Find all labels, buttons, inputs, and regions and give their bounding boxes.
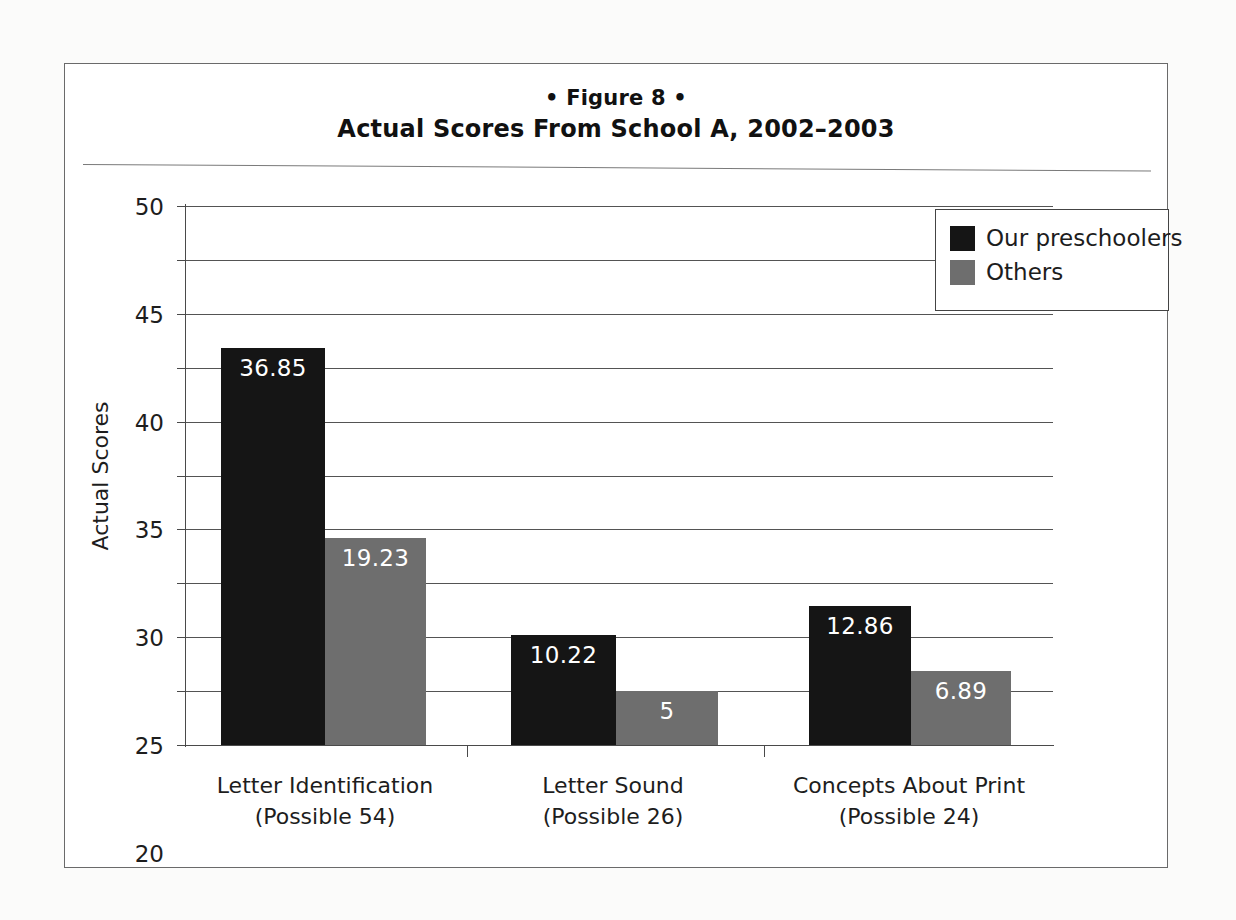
- bar-value-label: 5: [616, 698, 718, 724]
- y-axis-tick: 45: [177, 260, 186, 261]
- bar-value-label: 36.85: [221, 355, 325, 381]
- figure-title-block: • Figure 8 • Actual Scores From School A…: [65, 85, 1167, 145]
- bar-others-2: 6.89: [911, 671, 1011, 745]
- y-axis-tick: 40: [177, 314, 186, 315]
- y-axis-tick: 50: [177, 206, 186, 207]
- title-separator-rule: [83, 164, 1151, 172]
- x-axis-tick: [764, 745, 765, 757]
- bar-value-label: 10.22: [511, 642, 616, 668]
- category-label-line2: (Possible 26): [453, 801, 773, 832]
- y-axis-tick: 10: [177, 637, 186, 638]
- bar-others-1: 5: [616, 691, 718, 745]
- y-axis-tick: 35: [177, 368, 186, 369]
- category-label-line1: Letter Identification: [217, 773, 433, 798]
- gridline: [186, 260, 1053, 261]
- category-label-1: Letter Sound(Possible 26): [453, 770, 773, 832]
- y-axis-tick-label: 20: [135, 841, 164, 867]
- category-label-2: Concepts About Print(Possible 24): [749, 770, 1069, 832]
- legend-item-our-preschoolers: Our preschoolers: [950, 221, 1168, 255]
- figure-frame: • Figure 8 • Actual Scores From School A…: [64, 63, 1168, 868]
- bar-value-label: 6.89: [911, 678, 1011, 704]
- y-axis-tick-label: 50: [135, 194, 164, 220]
- figure-title: Actual Scores From School A, 2002–2003: [65, 114, 1167, 145]
- y-axis-title: Actual Scores: [88, 401, 113, 550]
- dark-square-icon: [950, 226, 975, 251]
- bar-our-preschoolers-1: 10.22: [511, 635, 616, 745]
- chart-legend: Our preschoolers Others: [935, 209, 1169, 311]
- category-label-0: Letter Identification(Possible 54): [165, 770, 485, 832]
- gray-square-icon: [950, 260, 975, 285]
- legend-item-others: Others: [950, 255, 1168, 289]
- x-axis-line: [185, 745, 1054, 746]
- y-axis-tick-label: 35: [135, 517, 164, 543]
- y-axis-tick: 25: [177, 476, 186, 477]
- bar-our-preschoolers-0: 36.85: [221, 348, 325, 745]
- y-axis-tick-label: 45: [135, 302, 164, 328]
- figure-number-label: • Figure 8 •: [65, 85, 1167, 111]
- legend-label-others: Others: [986, 259, 1063, 285]
- legend-label-our-preschoolers: Our preschoolers: [986, 225, 1182, 251]
- bar-value-label: 12.86: [809, 613, 911, 639]
- category-label-line2: (Possible 54): [165, 801, 485, 832]
- bar-our-preschoolers-2: 12.86: [809, 606, 911, 745]
- y-axis-title-container: Actual Scores: [83, 206, 117, 745]
- bar-value-label: 19.23: [325, 545, 426, 571]
- y-axis-tick: 15: [177, 583, 186, 584]
- y-axis-tick: 5: [177, 691, 186, 692]
- x-axis-tick: [467, 745, 468, 757]
- y-axis-tick: 20: [177, 529, 186, 530]
- y-axis-tick: 30: [177, 422, 186, 423]
- bar-others-0: 19.23: [325, 538, 426, 745]
- y-axis-tick-label: 40: [135, 410, 164, 436]
- y-axis-tick: 0: [177, 745, 186, 746]
- gridline: [186, 206, 1053, 207]
- y-axis-tick-label: 25: [135, 733, 164, 759]
- y-axis-tick-label: 30: [135, 625, 164, 651]
- gridline: [186, 314, 1053, 315]
- category-label-line1: Letter Sound: [542, 773, 684, 798]
- category-label-line1: Concepts About Print: [793, 773, 1025, 798]
- category-label-line2: (Possible 24): [749, 801, 1069, 832]
- plot-area: 05101520253035404550 36.8519.2310.22512.…: [186, 206, 1053, 745]
